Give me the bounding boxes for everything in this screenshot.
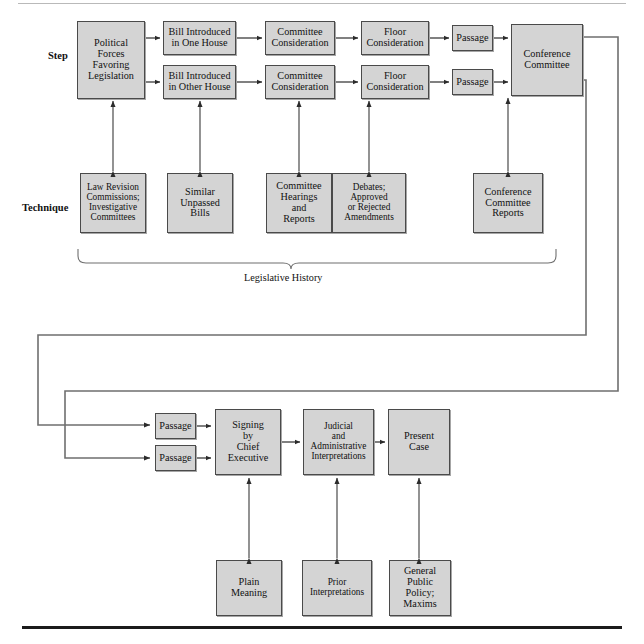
box-bill-other-house-label: Bill Introducedin Other House (166, 71, 232, 93)
box-political-forces[interactable]: PoliticalForcesFavoringLegislation (77, 21, 145, 99)
wire-conference-to-passage-3 (38, 80, 586, 425)
box-law-revision[interactable]: Law RevisionCommissions;InvestigativeCom… (80, 173, 146, 233)
box-general-public-policy[interactable]: GeneralPublicPolicy;Maxims (389, 560, 451, 616)
box-committee-consideration-1-label: CommitteeConsideration (269, 27, 330, 49)
box-bill-one-house[interactable]: Bill Introducedin One House (163, 21, 236, 55)
box-committee-hearings[interactable]: CommitteeHearingsandReports (266, 173, 332, 233)
box-general-public-policy-label: GeneralPublicPolicy;Maxims (401, 566, 438, 609)
box-conference-committee-label: ConferenceCommittee (522, 49, 573, 71)
box-judicial[interactable]: JudicialandAdministrativeInterpretations (303, 409, 374, 475)
top-rule (18, 3, 626, 4)
box-judicial-label: JudicialandAdministrativeInterpretations (309, 422, 369, 461)
box-committee-consideration-2-label: CommitteeConsideration (269, 71, 330, 93)
box-committee-consideration-2[interactable]: CommitteeConsideration (265, 65, 335, 99)
row-label-step: Step (48, 50, 68, 61)
box-passage-1[interactable]: Passage (452, 25, 493, 51)
legislative-process-diagram: Step Technique PoliticalForcesFavoringLe… (0, 0, 644, 644)
box-plain-meaning[interactable]: PlainMeaning (216, 560, 282, 616)
box-similar-unpassed-bills-label: SimilarUnpassedBills (178, 187, 222, 219)
box-present-case[interactable]: PresentCase (388, 409, 450, 475)
row-label-technique: Technique (22, 202, 68, 213)
box-passage-1-label: Passage (454, 33, 490, 44)
box-conference-committee-reports-label: ConferenceCommitteeReports (483, 187, 534, 219)
brace-legislative-history (78, 249, 556, 269)
box-signing[interactable]: SigningbyChiefExecutive (215, 409, 281, 475)
brace-caption-legislative-history: Legislative History (244, 272, 322, 283)
bottom-rule (22, 626, 622, 629)
box-passage-4[interactable]: Passage (155, 445, 196, 471)
box-signing-label: SigningbyChiefExecutive (226, 420, 271, 463)
box-conference-committee-reports[interactable]: ConferenceCommitteeReports (473, 173, 543, 233)
box-passage-2[interactable]: Passage (452, 69, 493, 95)
box-committee-consideration-1[interactable]: CommitteeConsideration (265, 21, 335, 55)
box-present-case-label: PresentCase (402, 431, 436, 453)
box-political-forces-label: PoliticalForcesFavoringLegislation (86, 38, 136, 81)
box-law-revision-label: Law RevisionCommissions;InvestigativeCom… (84, 183, 141, 222)
box-prior-interpretations-label: PriorInterpretations (308, 578, 366, 598)
box-floor-consideration-2[interactable]: FloorConsideration (361, 65, 429, 99)
box-committee-hearings-label: CommitteeHearingsandReports (274, 181, 323, 224)
box-prior-interpretations[interactable]: PriorInterpretations (302, 560, 372, 616)
box-floor-consideration-1-label: FloorConsideration (364, 27, 425, 49)
box-floor-consideration-2-label: FloorConsideration (364, 71, 425, 93)
box-passage-3-label: Passage (157, 421, 193, 432)
box-debates-label: Debates;Approvedor RejectedAmendments (342, 183, 396, 222)
box-bill-other-house[interactable]: Bill Introducedin Other House (163, 65, 236, 99)
box-floor-consideration-1[interactable]: FloorConsideration (361, 21, 429, 55)
box-plain-meaning-label: PlainMeaning (229, 577, 269, 599)
box-passage-2-label: Passage (454, 77, 490, 88)
box-bill-one-house-label: Bill Introducedin One House (167, 27, 233, 49)
box-similar-unpassed-bills[interactable]: SimilarUnpassedBills (167, 173, 233, 233)
box-debates[interactable]: Debates;Approvedor RejectedAmendments (332, 173, 406, 233)
wire-conference-to-passage-4 (65, 37, 618, 458)
box-passage-3[interactable]: Passage (155, 413, 196, 439)
box-conference-committee[interactable]: ConferenceCommittee (511, 24, 583, 96)
box-passage-4-label: Passage (157, 453, 193, 464)
